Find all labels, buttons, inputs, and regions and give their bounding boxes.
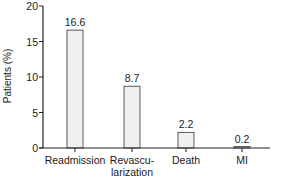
bars-group	[67, 30, 250, 148]
y-tick-label-0: 0	[20, 142, 38, 154]
y-tick-label-20: 20	[20, 0, 38, 12]
plot-area	[0, 0, 281, 180]
x-ticks	[75, 148, 242, 152]
bar-death	[178, 132, 194, 148]
bar-readmission	[67, 30, 83, 148]
category-label-mi: MI	[202, 154, 281, 166]
bar-value-revascularization: 8.7	[112, 72, 152, 84]
y-axis-label: Patients (%)	[2, 46, 14, 106]
bar-value-mi: 0.2	[222, 133, 262, 145]
category-label-revascularization-line2: larization	[92, 166, 172, 178]
y-tick-label-10: 10	[20, 71, 38, 83]
bar-value-death: 2.2	[166, 118, 206, 130]
y-tick-label-15: 15	[20, 36, 38, 48]
bar-value-readmission: 16.6	[55, 16, 95, 28]
bar-revascularization	[124, 86, 140, 148]
bar-chart: Patients (%) 0 5 10 15 20 16.6 8.7 2.2 0…	[0, 0, 281, 180]
y-tick-label-5: 5	[20, 107, 38, 119]
